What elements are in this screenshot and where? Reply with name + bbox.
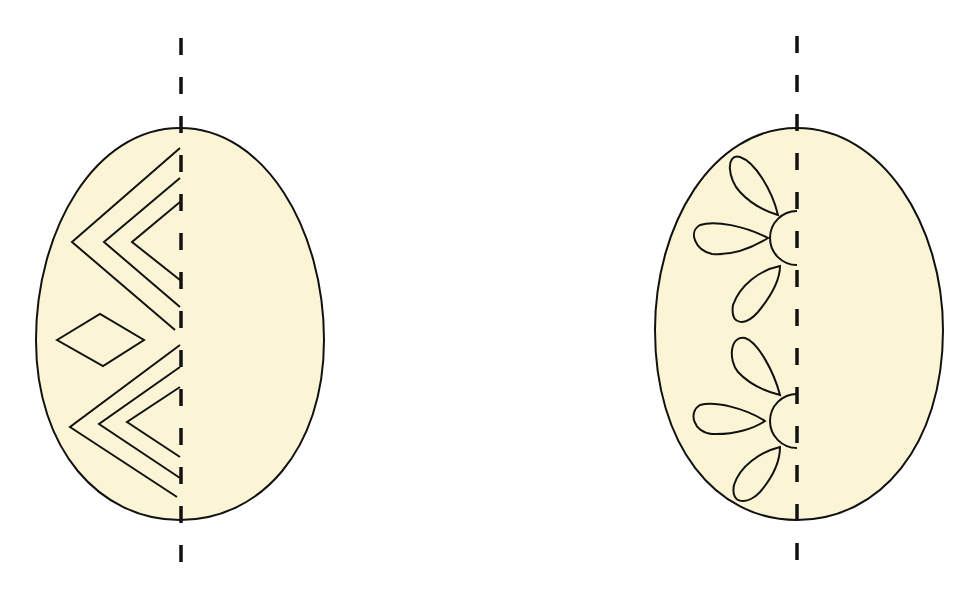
egg-right bbox=[655, 36, 943, 576]
egg-right-outline bbox=[655, 128, 943, 520]
egg-left bbox=[36, 38, 324, 580]
symmetry-diagram bbox=[0, 0, 975, 606]
